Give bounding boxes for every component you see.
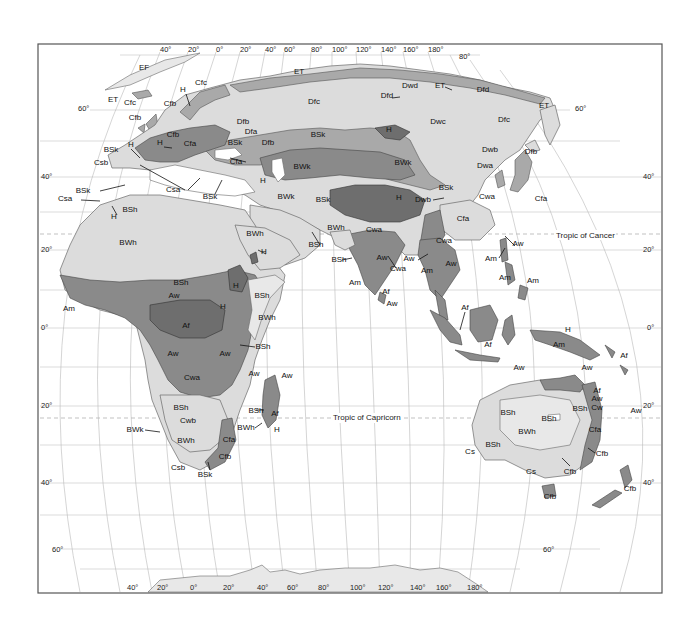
climate-zone-label: BSk bbox=[76, 186, 92, 195]
lat-label: 60° bbox=[543, 545, 554, 554]
climate-zone-label: BWh bbox=[258, 313, 275, 322]
climate-zone-label: Cfb bbox=[164, 99, 177, 108]
lat-label: 40° bbox=[41, 478, 52, 487]
lon-label: 120° bbox=[356, 45, 372, 54]
climate-zone-label: Cs bbox=[465, 447, 475, 456]
lon-label: 100° bbox=[332, 45, 348, 54]
climate-zone-label: BSk bbox=[311, 130, 327, 139]
lat-label: 60° bbox=[575, 104, 586, 113]
lon-label: 60° bbox=[287, 583, 298, 592]
climate-zone-label: H bbox=[180, 85, 186, 94]
lon-label: 40° bbox=[265, 45, 276, 54]
climate-zone-label: Af bbox=[620, 351, 628, 360]
climate-zone-label: Csa bbox=[166, 185, 181, 194]
lon-label: 40° bbox=[257, 583, 268, 592]
climate-zone-label: Dfd bbox=[381, 91, 393, 100]
lon-label: 0° bbox=[216, 45, 223, 54]
tropic-of-cancer-label: Tropic of Cancer bbox=[556, 231, 615, 240]
lon-label: 40° bbox=[127, 583, 138, 592]
climate-zone-label: H bbox=[128, 140, 134, 149]
climate-zone-label: Dwc bbox=[430, 117, 446, 126]
climate-zone-label: BSh bbox=[173, 403, 188, 412]
climate-zone-label: BSh bbox=[485, 440, 500, 449]
climate-zone-label: Dfb bbox=[525, 147, 538, 156]
climate-zone-label: Af bbox=[182, 321, 190, 330]
climate-zone-label: ET bbox=[108, 95, 118, 104]
climate-zone-label: Csa bbox=[58, 194, 73, 203]
climate-zone-label: Am bbox=[553, 340, 565, 349]
climate-zone-label: Af bbox=[484, 340, 492, 349]
climate-zone-label: Cwb bbox=[180, 416, 197, 425]
tropic-of-capricorn-label: Tropic of Capricorn bbox=[333, 413, 401, 422]
climate-zone-label: Aw bbox=[377, 253, 388, 262]
lon-label: 140° bbox=[410, 583, 426, 592]
lon-label: 100° bbox=[350, 583, 366, 592]
lon-label: 80° bbox=[318, 583, 329, 592]
climate-zone-label: BSk bbox=[198, 470, 214, 479]
climate-zone-label: Cfb bbox=[129, 113, 142, 122]
climate-zone-label: Dfd bbox=[477, 85, 489, 94]
lat-label: 40° bbox=[643, 172, 654, 181]
climate-zone-label: BSh bbox=[122, 205, 137, 214]
climate-zone-label: Aw bbox=[631, 406, 642, 415]
climate-zone-label: Aw bbox=[169, 291, 180, 300]
lon-label: 20° bbox=[157, 583, 168, 592]
climate-zone-label: Dfa bbox=[245, 127, 258, 136]
lat-label: 60° bbox=[52, 545, 63, 554]
climate-zone-label: Cfc bbox=[195, 78, 207, 87]
climate-zone-label: BWh bbox=[119, 238, 136, 247]
climate-zone-label: ET bbox=[294, 67, 304, 76]
climate-zone-label: ET bbox=[435, 81, 445, 90]
climate-zone-label: BSh bbox=[255, 342, 270, 351]
lon-label: 180° bbox=[428, 45, 444, 54]
lat-label: 20° bbox=[643, 245, 654, 254]
climate-zone-label: Cfb bbox=[167, 130, 180, 139]
climate-zone-label: BWk bbox=[395, 158, 413, 167]
climate-zone-label: Dfb bbox=[262, 138, 275, 147]
climate-zone-label: Cfb bbox=[624, 484, 637, 493]
climate-zone-label: Aw bbox=[404, 254, 415, 263]
climate-zone-label: Dwb bbox=[482, 145, 499, 154]
climate-zone-label: BSh bbox=[500, 408, 515, 417]
climate-zone-label: H bbox=[565, 325, 571, 334]
climate-zone-label: Cfb bbox=[564, 467, 577, 476]
lon-label: 160° bbox=[436, 583, 452, 592]
climate-zone-label: H bbox=[260, 176, 266, 185]
lon-label: 180° bbox=[467, 583, 483, 592]
climate-zone-label: H bbox=[274, 425, 280, 434]
climate-zone-label: H bbox=[111, 212, 117, 221]
climate-zone-label: Cwa bbox=[479, 192, 496, 201]
climate-zone-label: H bbox=[261, 247, 267, 256]
climate-zone-label: Am bbox=[349, 278, 361, 287]
climate-zone-label: ET bbox=[539, 101, 549, 110]
climate-zone-label: Dwa bbox=[477, 161, 494, 170]
climate-zone-label: BSk bbox=[228, 138, 244, 147]
climate-zone-label: Cfb bbox=[219, 452, 232, 461]
climate-zone-label: Cfc bbox=[124, 98, 136, 107]
climate-zone-label: BWh bbox=[237, 423, 254, 432]
climate-zone-label: BSk bbox=[104, 145, 120, 154]
climate-zone-label: BSh bbox=[173, 278, 188, 287]
climate-zone-label: Am bbox=[485, 254, 497, 263]
climate-zone-label: Cwa bbox=[184, 373, 201, 382]
climate-zone-label: Cs bbox=[526, 467, 536, 476]
climate-zone-label: Cwa bbox=[436, 236, 453, 245]
climate-zone-label: BSk bbox=[439, 183, 455, 192]
lon-label: 0° bbox=[190, 583, 197, 592]
climate-zone-label: Cfb bbox=[596, 449, 609, 458]
climate-zone-label: H bbox=[157, 138, 163, 147]
climate-zone-label: BWh bbox=[327, 223, 344, 232]
lon-label: 60° bbox=[284, 45, 295, 54]
climate-zone-label: BSh bbox=[254, 291, 269, 300]
lon-label: 160° bbox=[403, 45, 419, 54]
climate-zone-label: Dwb bbox=[415, 195, 432, 204]
climate-zone-label: Aw bbox=[446, 259, 457, 268]
climate-zone-label: Cfa bbox=[223, 435, 236, 444]
climate-zone-label: Am bbox=[63, 304, 75, 313]
climate-zone-label: Aw bbox=[220, 349, 231, 358]
lon-label: 40° bbox=[160, 45, 171, 54]
climate-zone-label: Csb bbox=[94, 158, 109, 167]
lat-label: 80° bbox=[459, 52, 470, 61]
climate-zone-label: Cfa bbox=[184, 139, 197, 148]
climate-zone-label: Af bbox=[461, 303, 469, 312]
